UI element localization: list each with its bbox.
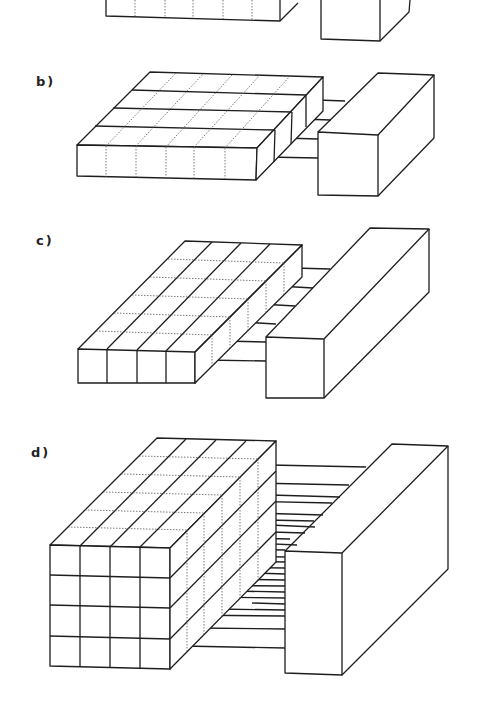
panel-a: [106, 0, 410, 41]
diagram-canvas: [0, 0, 485, 707]
panel-c: [78, 228, 429, 398]
panel-b: [77, 72, 434, 196]
panel-d: [50, 438, 448, 675]
